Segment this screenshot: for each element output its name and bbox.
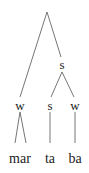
node-w-right: w bbox=[70, 99, 79, 112]
leaf-ta: ta bbox=[45, 152, 55, 166]
edge-root-left bbox=[20, 12, 47, 97]
metrical-tree-diagram: s w s w mar ta ba bbox=[0, 0, 89, 173]
tree-edges bbox=[0, 0, 89, 173]
edge-root-right bbox=[47, 12, 61, 57]
edge-s-mid bbox=[51, 72, 62, 97]
edge-w-mar-2 bbox=[20, 112, 26, 143]
edge-w-mar-1 bbox=[15, 112, 20, 143]
node-s-mid: s bbox=[47, 99, 52, 112]
node-w-left: w bbox=[15, 99, 24, 112]
leaf-ba: ba bbox=[68, 152, 81, 166]
leaf-mar: mar bbox=[9, 152, 31, 166]
node-s-top: s bbox=[59, 58, 64, 71]
edge-s-right bbox=[62, 72, 74, 97]
